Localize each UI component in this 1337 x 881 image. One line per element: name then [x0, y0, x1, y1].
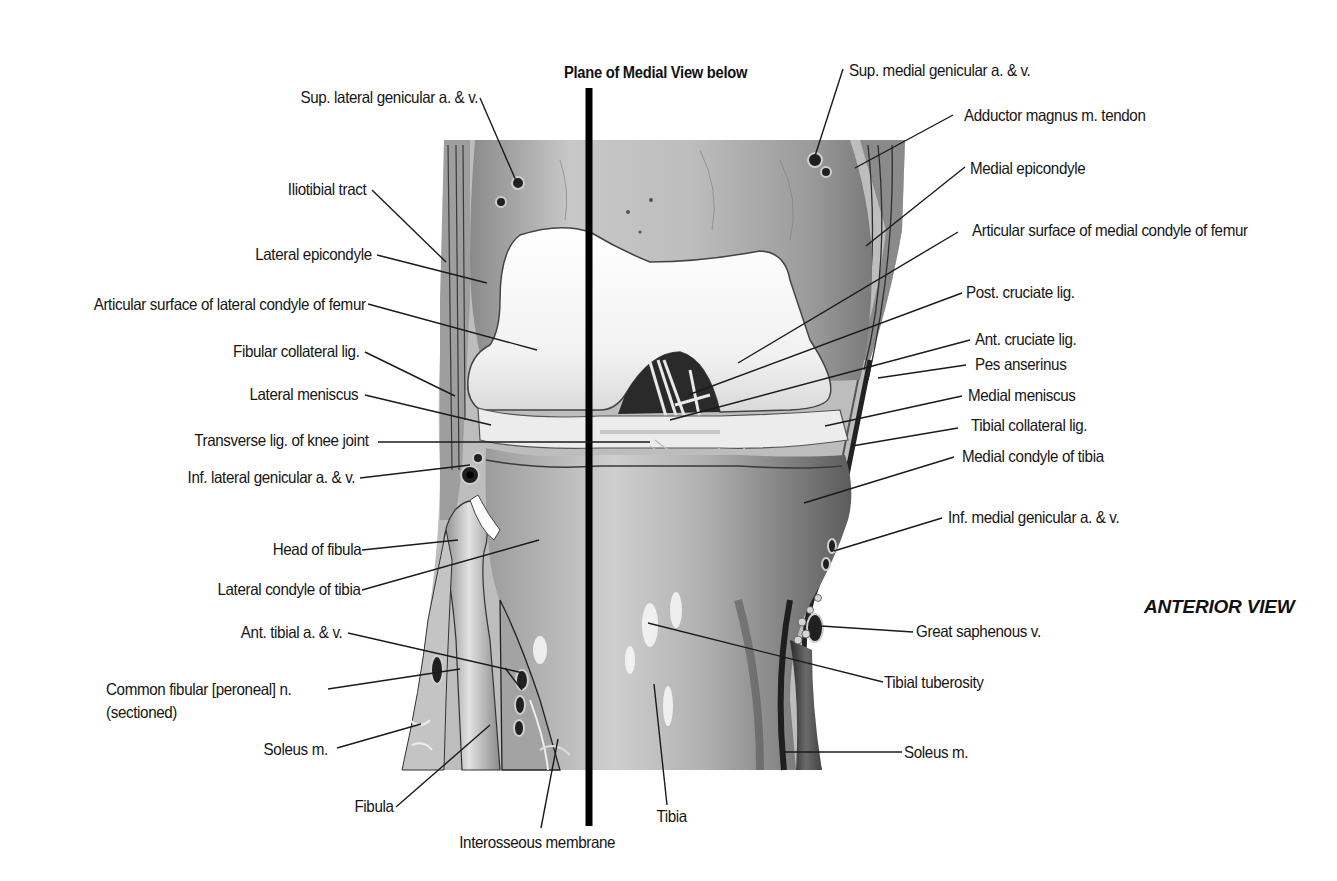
leader-line [878, 365, 966, 378]
label-tibial-collateral: Tibial collateral lig. [971, 416, 1087, 435]
label-adductor-magnus: Adductor magnus m. tendon [964, 106, 1146, 125]
label-fibula: Fibula [355, 797, 394, 816]
label-interosseous: Interosseous membrane [459, 833, 615, 852]
label-med-epicondyle: Medial epicondyle [970, 159, 1085, 178]
label-tibial-tuberosity: Tibial tuberosity [884, 673, 983, 692]
label-med-condyle-tibia: Medial condyle of tibia [962, 447, 1104, 466]
label-common-fibular-line2: (sectioned) [106, 703, 177, 722]
label-transverse-lig: Transverse lig. of knee joint [195, 431, 369, 450]
label-ant-tibial: Ant. tibial a. & v. [240, 623, 342, 642]
label-pes-anserinus: Pes anserinus [975, 355, 1066, 374]
leader-line [834, 518, 942, 551]
label-lat-meniscus: Lateral meniscus [249, 385, 358, 404]
label-ant-cruciate: Ant. cruciate lig. [975, 330, 1076, 349]
figure-title: Plane of Medial View below [564, 64, 747, 82]
label-post-cruciate: Post. cruciate lig. [966, 283, 1075, 302]
leader-line [372, 190, 446, 262]
label-tibia: Tibia [656, 807, 687, 826]
label-lat-epicondyle: Lateral epicondyle [255, 245, 372, 264]
label-inf-med-genicular: Inf. medial genicular a. & v. [948, 508, 1119, 527]
label-soleus-right: Soleus m. [904, 743, 968, 762]
label-sup-med-genicular: Sup. medial genicular a. & v. [849, 61, 1030, 80]
label-med-meniscus: Medial meniscus [968, 386, 1076, 405]
label-common-fibular: Common fibular [peroneal] n. [106, 680, 291, 699]
label-lat-condyle-tibia: Lateral condyle of tibia [218, 580, 361, 599]
leader-line [821, 626, 913, 632]
label-iliotibial-tract: Iliotibial tract [288, 180, 366, 199]
label-art-surf-med-condyle: Articular surface of medial condyle of f… [972, 221, 1248, 240]
label-inf-lat-genicular: Inf. lateral genicular a. & v. [187, 468, 355, 487]
label-head-of-fibula: Head of fibula [272, 540, 361, 559]
label-sup-lat-genicular: Sup. lateral genicular a. & v. [300, 88, 478, 107]
label-fibular-collateral: Fibular collateral lig. [233, 342, 360, 361]
knee-anatomy-diagram: Plane of Medial View below ANTERIOR VIEW… [0, 0, 1337, 881]
leader-line [852, 428, 958, 446]
label-great-saphenous: Great saphenous v. [916, 622, 1041, 641]
label-art-surf-lat-condyle: Articular surface of lateral condyle of … [94, 295, 366, 314]
view-label: ANTERIOR VIEW [1144, 596, 1294, 618]
label-soleus-left: Soleus m. [264, 740, 328, 759]
